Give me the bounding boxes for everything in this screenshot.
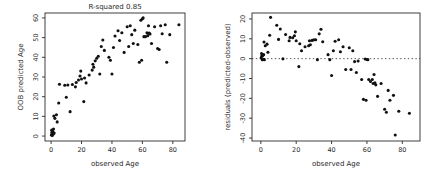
data-point: [136, 43, 139, 46]
data-point: [120, 31, 123, 34]
data-point: [284, 33, 287, 36]
data-point: [387, 89, 390, 92]
data-point: [351, 49, 354, 52]
data-point: [321, 40, 324, 43]
data-point: [309, 43, 312, 46]
data-point: [288, 39, 291, 42]
data-point: [300, 49, 303, 52]
data-point: [385, 111, 388, 114]
data-point: [112, 46, 115, 49]
data-point: [52, 127, 55, 130]
data-point: [118, 39, 121, 42]
data-point: [357, 59, 360, 62]
data-point: [103, 49, 106, 52]
data-point: [161, 32, 164, 35]
data-point: [328, 58, 331, 61]
data-point: [82, 100, 85, 103]
data-point: [123, 51, 126, 54]
data-point: [56, 120, 59, 123]
data-point: [91, 69, 94, 72]
data-point: [314, 38, 317, 41]
data-point: [74, 85, 77, 88]
data-point: [371, 78, 374, 81]
data-point: [366, 58, 369, 61]
x-tick-label: 80: [398, 146, 406, 154]
data-point: [133, 29, 136, 32]
data-point: [288, 36, 291, 39]
plot-title: R-squared 0.85: [88, 3, 141, 11]
data-point: [268, 34, 271, 37]
data-point: [348, 46, 351, 49]
data-point: [355, 71, 358, 74]
x-tick-label: 40: [327, 146, 335, 154]
data-point: [376, 95, 379, 98]
data-point: [127, 45, 130, 48]
data-point: [150, 42, 153, 45]
data-point: [334, 40, 337, 43]
data-point: [116, 29, 119, 32]
y-axis-label: OOB predicted Age: [17, 43, 25, 110]
data-point: [113, 34, 116, 37]
data-point: [372, 73, 375, 76]
data-point: [85, 81, 88, 84]
data-point: [130, 33, 133, 36]
data-point: [107, 56, 110, 59]
data-point: [304, 45, 307, 48]
data-point: [297, 65, 300, 68]
x-tick-label: 60: [138, 146, 146, 154]
y-axis-label: residuals (predicted-observed): [224, 23, 232, 131]
data-point: [397, 110, 400, 113]
y-tick-label: 0: [32, 134, 40, 138]
x-tick-label: 40: [108, 146, 116, 154]
data-point: [142, 16, 145, 19]
data-point: [295, 39, 298, 42]
data-point: [78, 74, 81, 77]
x-tick-label: 0: [49, 146, 53, 154]
data-point: [308, 39, 311, 42]
data-point: [53, 132, 56, 135]
data-point: [100, 45, 103, 48]
data-point: [339, 50, 342, 53]
y-tick-label: -20: [239, 93, 247, 104]
data-point: [294, 30, 297, 33]
data-point: [277, 38, 280, 41]
data-point: [126, 25, 129, 28]
data-point: [265, 43, 268, 46]
data-point: [58, 83, 61, 86]
data-point: [148, 33, 151, 36]
data-point: [360, 78, 363, 81]
data-point: [392, 94, 395, 97]
data-point: [380, 82, 383, 85]
data-point: [140, 59, 143, 62]
data-point: [177, 23, 180, 26]
y-tick-label: 60: [32, 14, 40, 22]
data-point: [269, 16, 272, 19]
y-tick-label: -10: [239, 73, 247, 84]
data-point: [263, 58, 266, 61]
data-point: [293, 34, 296, 37]
x-axis-label: observed Age: [312, 160, 360, 168]
data-point: [57, 101, 60, 104]
y-tick-label: -40: [239, 133, 247, 144]
data-point: [362, 98, 365, 101]
data-point: [97, 55, 100, 58]
data-point: [262, 53, 265, 56]
data-point: [342, 45, 345, 48]
x-tick-label: 80: [169, 146, 177, 154]
data-point: [153, 25, 156, 28]
data-point: [165, 61, 168, 64]
data-point: [275, 24, 278, 27]
data-point: [158, 48, 161, 51]
data-point: [349, 68, 352, 71]
data-point: [79, 70, 82, 73]
x-tick-label: 60: [363, 146, 371, 154]
data-point: [55, 113, 58, 116]
x-tick-label: 20: [292, 146, 300, 154]
data-point: [75, 81, 78, 84]
data-point: [281, 57, 284, 60]
x-tick-label: 20: [77, 146, 85, 154]
data-point: [408, 112, 411, 115]
data-point: [168, 33, 171, 36]
scatter-figure: 0204060800102030405060R-squared 0.85obse…: [0, 0, 434, 183]
data-point: [266, 51, 269, 54]
